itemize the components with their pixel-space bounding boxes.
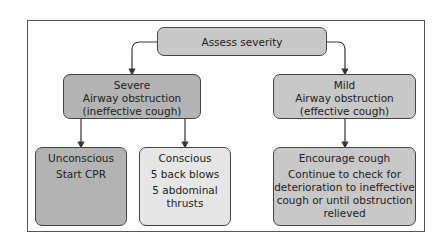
- conscious-node: Conscious 5 back blows 5 abdominal thrus…: [139, 147, 231, 226]
- unconscious-line-1: Start CPR: [36, 168, 126, 181]
- assess-severity-node: Assess severity: [157, 27, 327, 56]
- severe-line-2: (ineffective cough): [64, 105, 200, 118]
- unconscious-title: Unconscious: [36, 152, 126, 165]
- mild-line-1: Airway obstruction: [274, 92, 415, 105]
- encourage-cough-line-1: Continue to check for: [274, 168, 415, 181]
- severe-title: Severe: [64, 79, 200, 92]
- encourage-cough-line-3: cough or until obstruction: [274, 194, 415, 207]
- encourage-cough-line-2: deterioration to ineffective: [274, 181, 415, 194]
- mild-node: Mild Airway obstruction (effective cough…: [273, 74, 416, 119]
- encourage-cough-line-4: relieved: [274, 207, 415, 220]
- conscious-line-3: thrusts: [140, 197, 230, 210]
- mild-line-2: (effective cough): [274, 105, 415, 118]
- conscious-line-2: 5 abdominal: [140, 184, 230, 197]
- severe-node: Severe Airway obstruction (ineffective c…: [63, 74, 201, 119]
- mild-title: Mild: [274, 79, 415, 92]
- conscious-title: Conscious: [140, 152, 230, 165]
- encourage-cough-node: Encourage cough Continue to check for de…: [273, 147, 416, 226]
- encourage-cough-title: Encourage cough: [274, 152, 415, 165]
- unconscious-node: Unconscious Start CPR: [35, 147, 127, 226]
- severe-line-1: Airway obstruction: [64, 92, 200, 105]
- assess-severity-label: Assess severity: [158, 36, 326, 49]
- conscious-line-1: 5 back blows: [140, 168, 230, 181]
